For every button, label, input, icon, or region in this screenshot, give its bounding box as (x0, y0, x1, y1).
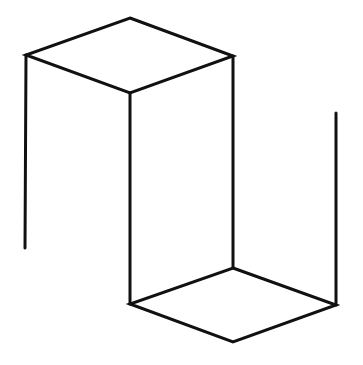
isometric-box-diagram (0, 0, 363, 365)
bottom-rhombus (130, 268, 336, 342)
top-rhombus (26, 18, 233, 93)
left-edge (25, 55, 26, 248)
